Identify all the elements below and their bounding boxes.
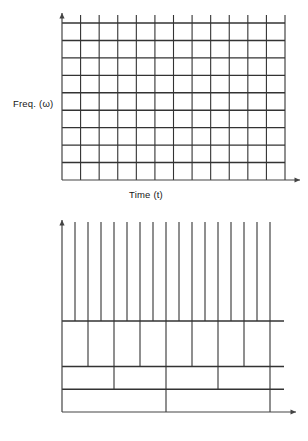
wavelet-tiling-plot bbox=[0, 212, 308, 441]
wavelet-axes bbox=[59, 220, 296, 415]
wavelet-tiling-panel: Freq. (ω) Time (t) bbox=[0, 212, 308, 441]
wavelet-gridlines bbox=[62, 222, 284, 412]
stft-axes bbox=[59, 13, 300, 183]
stft-tiling-panel: Freq. (ω) Time (t) bbox=[0, 0, 308, 212]
wavelet-x-axis-arrowhead bbox=[291, 409, 297, 414]
stft-x-axis-arrowhead bbox=[295, 177, 301, 182]
stft-y-axis-label: Freq. (ω) bbox=[13, 99, 53, 109]
stft-x-axis-label: Time (t) bbox=[129, 190, 163, 200]
wavelet-y-axis-arrowhead bbox=[59, 220, 64, 226]
figure-root: Freq. (ω) Time (t) Freq. (ω) Time (t) bbox=[0, 0, 308, 441]
stft-y-axis-arrowhead bbox=[59, 13, 64, 19]
stft-gridlines bbox=[62, 15, 285, 180]
